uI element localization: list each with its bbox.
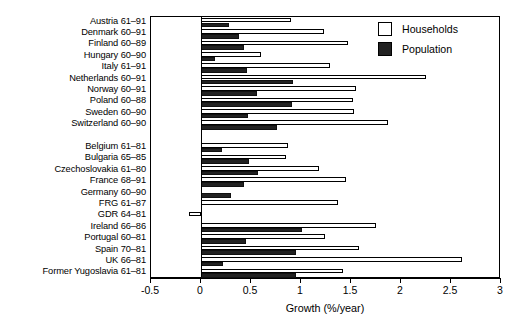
- bar-population: [201, 80, 293, 85]
- category-axis-labels: Austria 61–91Denmark 60–91Finland 60–89H…: [0, 16, 146, 278]
- x-tick-0: [150, 278, 151, 283]
- category-label: Netherlands 60–91: [0, 74, 146, 83]
- bar-population: [201, 159, 249, 164]
- x-tick-label-5: 2: [380, 285, 420, 296]
- category-label: Bulgaria 65–85: [0, 153, 146, 162]
- category-label: Poland 60–88: [0, 96, 146, 105]
- x-tick-label-3: 1: [280, 285, 320, 296]
- bar-households: [201, 200, 338, 205]
- bar-population: [201, 228, 302, 233]
- bar-population: [201, 239, 246, 244]
- category-label: Germany 60–90: [0, 188, 146, 197]
- x-axis-line: [150, 278, 500, 279]
- x-tick-label-2: 0.5: [230, 285, 270, 296]
- bar-population: [201, 193, 231, 198]
- bar-population: [201, 262, 223, 267]
- x-tick-3: [300, 278, 301, 283]
- bar-population: [201, 34, 239, 39]
- legend-label-households: Households: [402, 23, 458, 35]
- legend-label-population: Population: [402, 43, 452, 55]
- zero-baseline: [201, 17, 202, 277]
- chart-figure: Austria 61–91Denmark 60–91Finland 60–89H…: [0, 0, 519, 331]
- category-label: Norway 60–91: [0, 85, 146, 94]
- bar-population: [201, 57, 215, 62]
- category-label: Denmark 60–91: [0, 28, 146, 37]
- category-label: Sweden 60–90: [0, 108, 146, 117]
- category-label: Ireland 66–86: [0, 222, 146, 231]
- x-tick-label-7: 3: [480, 285, 519, 296]
- category-label: FRG 61–87: [0, 199, 146, 208]
- x-tick-label-1: 0: [180, 285, 220, 296]
- bar-households: [189, 212, 201, 217]
- x-tick-1: [200, 278, 201, 283]
- category-label: UK 66–81: [0, 256, 146, 265]
- x-tick-6: [450, 278, 451, 283]
- category-label: GDR 64–81: [0, 210, 146, 219]
- x-tick-label-6: 2.5: [430, 285, 470, 296]
- bar-population: [201, 102, 292, 107]
- bar-population: [201, 171, 258, 176]
- category-label: Portugal 60–81: [0, 233, 146, 242]
- category-label: Hungary 60–90: [0, 51, 146, 60]
- x-tick-4: [350, 278, 351, 283]
- bar-population: [201, 182, 244, 187]
- category-label: Former Yugoslavia 61–81: [0, 267, 146, 276]
- bar-population: [201, 114, 248, 119]
- x-tick-2: [250, 278, 251, 283]
- x-tick-label-0: -0.5: [130, 285, 170, 296]
- x-tick-7: [500, 278, 501, 283]
- bar-population: [201, 148, 222, 153]
- category-label: Switzerland 60–90: [0, 119, 146, 128]
- bar-population: [201, 23, 229, 28]
- bar-population: [201, 125, 277, 130]
- x-tick-label-4: 1.5: [330, 285, 370, 296]
- category-label: Spain 70–81: [0, 245, 146, 254]
- legend-swatch-population: [378, 42, 392, 56]
- legend-item-population: Population: [378, 40, 496, 60]
- legend-swatch-households: [378, 22, 392, 36]
- bar-population: [201, 68, 247, 73]
- x-axis-title: Growth (%/year): [150, 302, 500, 314]
- category-label: Czechoslovakia 61–80: [0, 165, 146, 174]
- chart-legend: Households Population: [378, 20, 496, 60]
- bar-households: [201, 257, 462, 262]
- category-label: Italy 61–91: [0, 62, 146, 71]
- category-label: Belgium 61–81: [0, 142, 146, 151]
- x-tick-5: [400, 278, 401, 283]
- bar-population: [201, 45, 244, 50]
- category-label: Austria 61–91: [0, 17, 146, 26]
- bar-population: [201, 91, 257, 96]
- category-label: Finland 60–89: [0, 39, 146, 48]
- category-label: France 68–91: [0, 176, 146, 185]
- bar-population: [201, 250, 296, 255]
- legend-item-households: Households: [378, 20, 496, 40]
